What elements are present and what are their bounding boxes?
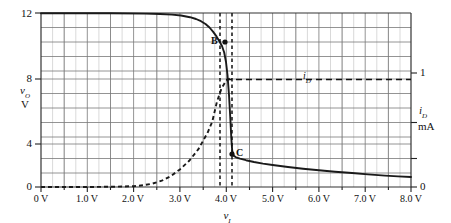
annotation-id-subscript: D	[306, 77, 311, 85]
y-axis-right-ticks	[411, 73, 417, 187]
annotation-point-b: B	[211, 36, 218, 46]
diode-transfer-characteristic-figure: 12 8 4 0 vO V 1 0 iD mA 0 V 1.0 V 2.0 V …	[0, 0, 451, 223]
chart-canvas	[0, 0, 451, 223]
y-tick-label-12: 12	[12, 8, 32, 19]
grid-major-vertical	[64, 13, 388, 187]
y-tick-label-right-0: 0	[420, 181, 438, 192]
x-axis-ticks	[41, 187, 411, 192]
operating-point-c-marker	[229, 151, 234, 156]
operating-point-b-marker	[222, 39, 227, 44]
y-tick-label-0: 0	[12, 181, 32, 192]
x-tick-label-8: 8.0 V	[368, 194, 451, 204]
y-tick-label-right-1: 1	[420, 67, 438, 78]
y-tick-label-4: 4	[12, 138, 32, 149]
x-tick-label-4: 4.0 V	[206, 194, 246, 204]
y-axis-right-subscript: D	[422, 112, 427, 120]
x-axis-subscript: I	[228, 217, 230, 223]
y-axis-left-unit: V	[13, 99, 37, 110]
annotation-id-line-label: iD	[303, 66, 311, 85]
id-current-curve	[41, 78, 231, 187]
annotation-point-c: C	[236, 148, 243, 158]
x-tick-label-3: 3.0 V	[160, 194, 200, 204]
x-tick-label-1: 1.0 V	[67, 194, 107, 204]
x-axis-name: vI	[212, 206, 242, 223]
y-axis-right-name: iD	[419, 101, 427, 120]
x-tick-label-0: 0 V	[21, 194, 61, 204]
x-tick-label-2: 2.0 V	[113, 194, 153, 204]
y-axis-right-unit: mA	[418, 121, 435, 132]
